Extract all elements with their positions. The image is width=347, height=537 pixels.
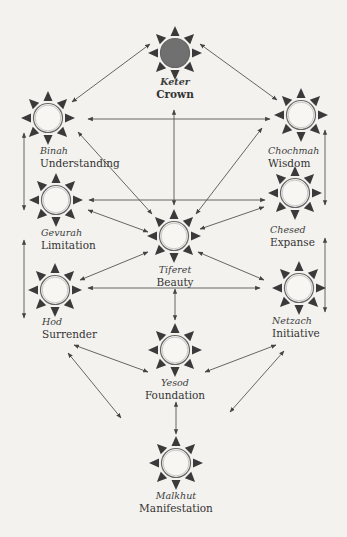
sun-ray-icon <box>65 209 78 222</box>
english-name: Initiative <box>272 327 320 339</box>
sun-ray-icon <box>171 323 180 333</box>
hebrew-name: Chesed <box>270 225 315 236</box>
sun-ray-icon <box>279 93 292 106</box>
hebrew-name: Tiferet <box>156 265 193 276</box>
sun-node-netzach <box>272 261 326 315</box>
sun-node-yesod <box>148 323 202 377</box>
sun-ray-icon <box>297 132 306 142</box>
hebrew-name: Malkhut <box>139 491 213 502</box>
sun-ray-icon <box>44 135 53 145</box>
sun-ray-icon <box>184 359 197 372</box>
sun-ray-icon <box>312 189 322 198</box>
english-name: Crown <box>156 88 194 100</box>
sun-ray-icon <box>152 245 165 258</box>
sun-ray-icon <box>184 31 197 44</box>
sun-ray-icon <box>171 26 180 36</box>
label-gevurah: Gevurah Limitation <box>41 228 96 251</box>
arrow-hod-yesod <box>74 345 148 372</box>
hebrew-name: Gevurah <box>41 228 96 239</box>
english-name: Beauty <box>156 276 193 288</box>
sun-ray-icon <box>268 189 278 198</box>
sun-ray-icon <box>26 127 39 140</box>
sun-ray-icon <box>153 359 166 372</box>
sun-ray-icon <box>183 214 196 227</box>
sun-ray-icon <box>308 297 321 310</box>
sun-ray-icon <box>65 114 75 123</box>
english-name: Manifestation <box>139 502 213 514</box>
arrow-keter-chochmah <box>200 44 277 100</box>
english-name: Surrender <box>42 328 97 340</box>
sun-ray-icon <box>152 214 165 227</box>
sun-ray-icon <box>64 299 77 312</box>
sun-ray-icon <box>148 346 158 355</box>
sun-ray-icon <box>310 124 323 137</box>
sun-ray-icon <box>291 210 300 220</box>
sun-ray-icon <box>44 91 53 101</box>
sun-disc-icon <box>285 274 314 303</box>
arrow-chesed-tiferet <box>200 207 264 229</box>
arrow-tiferet-netzach <box>198 252 264 280</box>
english-name: Wisdom <box>268 157 319 169</box>
sun-ray-icon <box>192 346 202 355</box>
sun-ray-icon <box>51 263 60 273</box>
hebrew-name: Keter <box>156 77 194 88</box>
sun-ray-icon <box>34 178 47 191</box>
sun-ray-icon <box>316 284 326 293</box>
label-hod: Hod Surrender <box>42 317 97 340</box>
sun-ray-icon <box>154 472 167 485</box>
sun-ray-icon <box>310 93 323 106</box>
label-malkhut: Malkhut Manifestation <box>139 491 213 514</box>
sun-ray-icon <box>26 96 39 109</box>
sun-disc-icon <box>161 39 190 68</box>
sun-ray-icon <box>72 286 82 295</box>
sun-ray-icon <box>64 268 77 281</box>
sun-ray-icon <box>295 305 304 315</box>
sun-ray-icon <box>52 173 61 183</box>
sun-node-binah <box>21 91 75 145</box>
sun-ray-icon <box>149 459 159 468</box>
sun-ray-icon <box>185 472 198 485</box>
sun-ray-icon <box>148 49 158 58</box>
sun-ray-icon <box>29 196 39 205</box>
arrow-chochmah-tiferet <box>196 128 262 214</box>
english-name: Foundation <box>145 389 205 401</box>
sun-ray-icon <box>279 124 292 137</box>
sun-ray-icon <box>318 111 328 120</box>
tree-of-life-diagram: Keter Crown Binah Understanding Chochmah… <box>0 0 347 537</box>
sun-ray-icon <box>33 299 46 312</box>
arrow-tiferet-hod <box>80 252 148 280</box>
sun-node-chochmah <box>274 88 328 142</box>
sun-ray-icon <box>73 196 83 205</box>
sun-disc-icon <box>42 186 71 215</box>
sun-ray-icon <box>170 253 179 263</box>
arrow-netzach-yesod <box>205 345 276 372</box>
sun-ray-icon <box>277 297 290 310</box>
sun-ray-icon <box>147 232 157 241</box>
sun-ray-icon <box>304 171 317 184</box>
arrow-netzach-malkhut <box>230 351 284 412</box>
sun-ray-icon <box>308 266 321 279</box>
sun-node-tiferet <box>147 209 201 263</box>
sun-ray-icon <box>297 88 306 98</box>
label-binah: Binah Understanding <box>40 146 120 169</box>
sun-node-keter <box>148 26 202 80</box>
sun-ray-icon <box>192 49 202 58</box>
english-name: Limitation <box>41 239 96 251</box>
label-keter: Keter Crown <box>156 77 194 100</box>
sun-disc-icon <box>161 336 190 365</box>
sun-disc-icon <box>34 104 63 133</box>
sun-node-chesed <box>268 166 322 220</box>
sun-ray-icon <box>171 367 180 377</box>
sun-ray-icon <box>191 232 201 241</box>
sun-disc-icon <box>162 449 191 478</box>
sun-ray-icon <box>183 245 196 258</box>
sun-ray-icon <box>34 209 47 222</box>
english-name: Expanse <box>270 236 315 248</box>
label-chesed: Chesed Expanse <box>270 225 315 248</box>
sun-ray-icon <box>273 202 286 215</box>
sun-ray-icon <box>185 441 198 454</box>
sun-ray-icon <box>193 459 203 468</box>
sun-node-gevurah <box>29 173 83 227</box>
hebrew-name: Chochmah <box>268 146 319 157</box>
label-tiferet: Tiferet Beauty <box>156 265 193 288</box>
